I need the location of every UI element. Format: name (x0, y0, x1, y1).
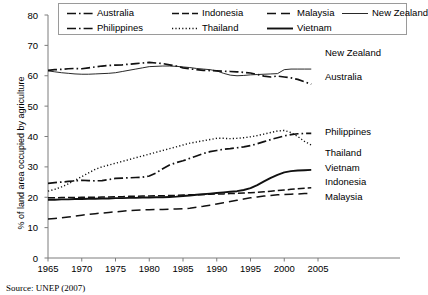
series-label-vietnam: Vietnam (325, 163, 360, 173)
series-label-philippines: Philippines (325, 127, 371, 137)
y-tick-label: 40 (18, 132, 38, 141)
y-tick-label: 70 (18, 41, 38, 50)
x-tick-label: 2005 (298, 264, 338, 273)
y-tick-label: 60 (18, 71, 38, 80)
series-label-indonesia: Indonesia (325, 177, 366, 187)
y-tick-label: 0 (18, 254, 38, 263)
series-line-malaysia (48, 194, 311, 220)
series-line-philippines (48, 133, 311, 183)
y-tick-label: 10 (18, 223, 38, 232)
series-label-australia: Australia (325, 72, 362, 82)
y-tick-label: 80 (18, 11, 38, 20)
series-line-thailand (48, 130, 311, 191)
source-note: Source: UNEP (2007) (6, 283, 85, 293)
y-tick-label: 50 (18, 102, 38, 111)
y-tick-label: 30 (18, 162, 38, 171)
series-label-new-zealand: New Zealand (325, 48, 381, 58)
series-label-thailand: Thailand (325, 148, 361, 158)
y-tick-label: 20 (18, 193, 38, 202)
series-label-malaysia: Malaysia (325, 192, 363, 202)
series-line-australia (48, 62, 311, 84)
